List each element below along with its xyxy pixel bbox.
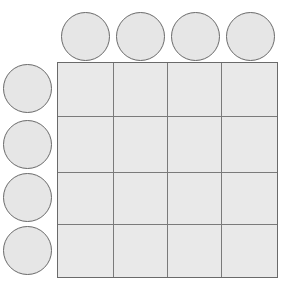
grid-cell-r3-c4: [222, 173, 277, 225]
grid-cell-r4-c2: [114, 225, 168, 277]
row-header-circle-4: [3, 226, 52, 275]
grid-cell-r1-c1: [58, 63, 114, 117]
grid-cell-r2-c1: [58, 117, 114, 173]
grid-cell-r4-c1: [58, 225, 114, 277]
column-header-circle-4: [226, 12, 275, 61]
row-header-circle-1: [3, 64, 52, 113]
column-header-circle-1: [61, 12, 110, 61]
column-header-circle-3: [171, 12, 220, 61]
grid-cell-r1-c2: [114, 63, 168, 117]
row-header-circle-3: [3, 173, 52, 222]
grid-cell-r1-c3: [168, 63, 222, 117]
grid-cell-r1-c4: [222, 63, 277, 117]
grid-cell-r2-c4: [222, 117, 277, 173]
grid-cell-r3-c2: [114, 173, 168, 225]
answer-grid: [57, 62, 278, 278]
column-header-circle-2: [116, 12, 165, 61]
grid-cell-r4-c3: [168, 225, 222, 277]
grid-cell-r4-c4: [222, 225, 277, 277]
grid-cell-r2-c3: [168, 117, 222, 173]
grid-cell-r2-c2: [114, 117, 168, 173]
row-header-circle-2: [3, 120, 52, 169]
grid-cell-r3-c1: [58, 173, 114, 225]
grid-cell-r3-c3: [168, 173, 222, 225]
